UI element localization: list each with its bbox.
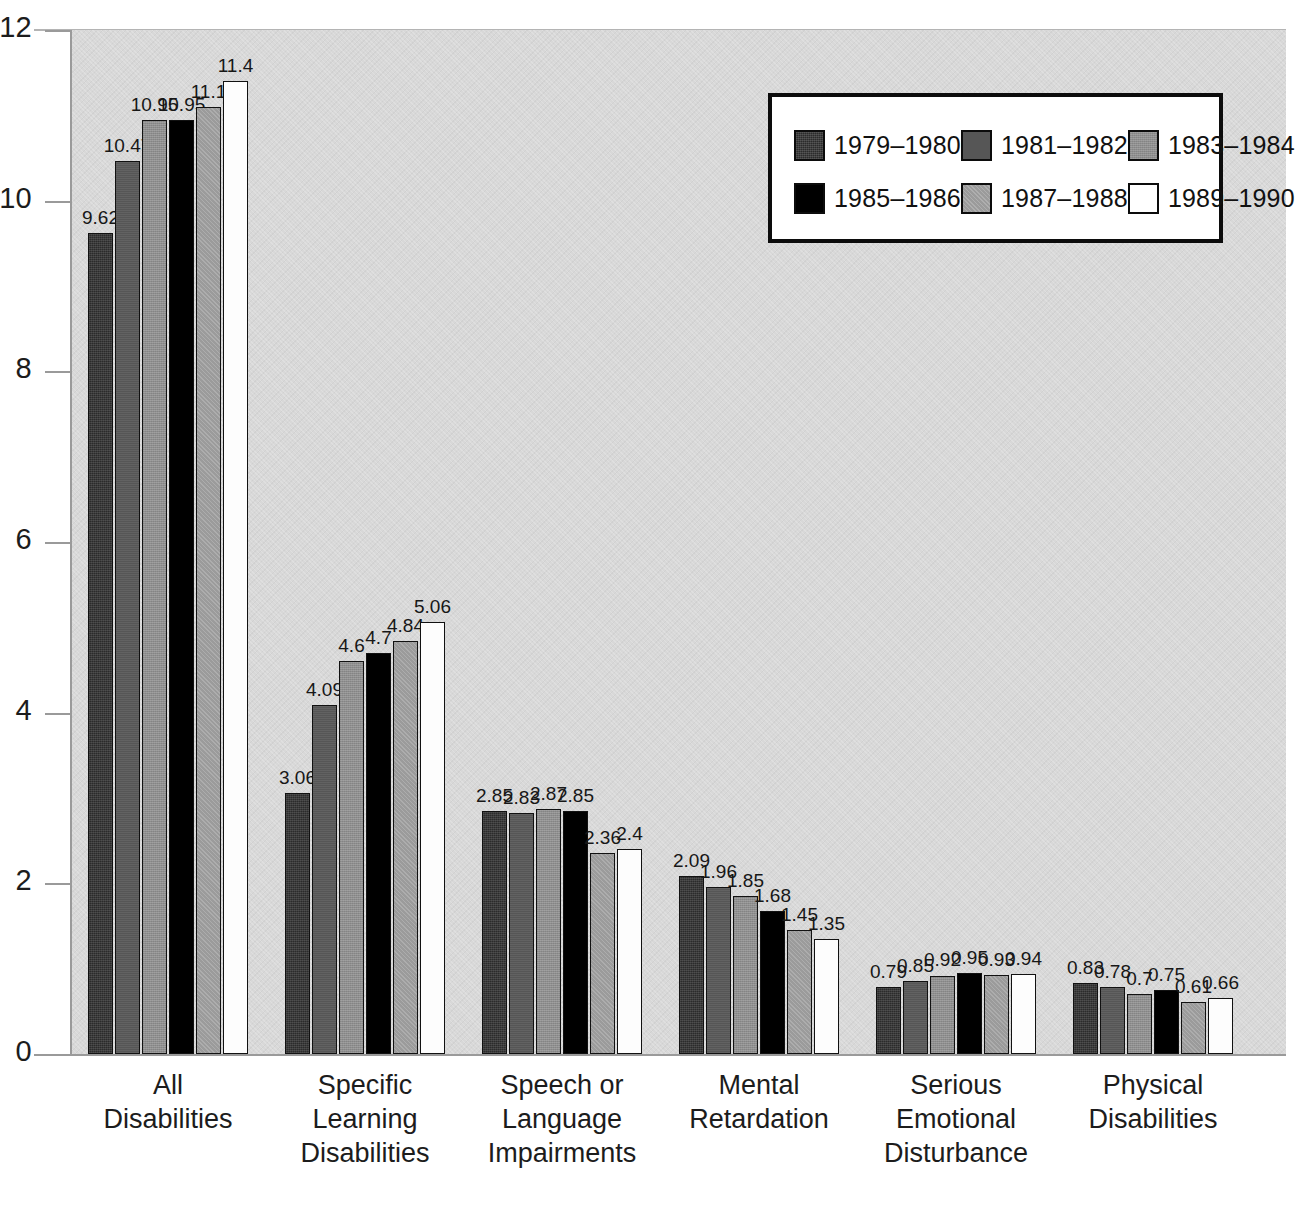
legend-item-label: 1979–1980 [834, 131, 961, 160]
bar-value-label: 1.35 [797, 913, 857, 935]
bar [1011, 974, 1036, 1054]
caption-strip [0, 1196, 1309, 1218]
y-axis-tick-label: 10 [0, 182, 32, 215]
legend-swatch [794, 130, 825, 161]
legend-swatch [961, 183, 992, 214]
y-axis-tick-label: 12 [0, 11, 32, 44]
bar [1181, 1002, 1206, 1054]
x-axis-category-label-line: Physical [1033, 1068, 1273, 1102]
y-axis-tick-label: 0 [16, 1035, 32, 1068]
legend-item-label: 1989–1990 [1168, 184, 1295, 213]
legend: 1979–19801981–19821983–19841985–19861987… [768, 93, 1223, 243]
bar [366, 653, 391, 1054]
bar [930, 976, 955, 1055]
bar [393, 641, 418, 1054]
bar [1127, 994, 1152, 1054]
y-axis-tick-mark [45, 883, 70, 885]
bar [223, 81, 248, 1054]
bar [1100, 987, 1125, 1054]
bar [88, 233, 113, 1054]
legend-item-label: 1981–1982 [1001, 131, 1128, 160]
bar [760, 911, 785, 1054]
bar [1208, 998, 1233, 1054]
bar [312, 705, 337, 1054]
bar [590, 853, 615, 1054]
legend-item-label: 1983–1984 [1168, 131, 1295, 160]
y-axis-tick-label: 6 [16, 523, 32, 556]
x-axis-category-label: PhysicalDisabilities [1033, 1068, 1273, 1136]
bar [984, 975, 1009, 1054]
legend-item: 1981–1982 [961, 130, 1128, 161]
bar-value-label: 0.94 [994, 948, 1054, 970]
x-axis-line [34, 1054, 1286, 1056]
x-axis-category-label-line: Disturbance [836, 1136, 1076, 1170]
bar-value-label: 11.4 [206, 55, 266, 77]
bar-value-label: 0.66 [1191, 972, 1251, 994]
bar [420, 622, 445, 1054]
bar [169, 120, 194, 1054]
legend-item: 1985–1986 [794, 183, 961, 214]
bar-value-label: 2.4 [600, 823, 660, 845]
bar [876, 987, 901, 1054]
legend-grid: 1979–19801981–19821983–19841985–19861987… [772, 97, 1219, 239]
legend-item-label: 1987–1988 [1001, 184, 1128, 213]
bar [339, 661, 364, 1054]
y-axis-tick-mark [45, 201, 70, 203]
legend-item: 1989–1990 [1128, 183, 1295, 214]
bar [509, 813, 534, 1054]
bar [536, 809, 561, 1054]
y-axis-tick-mark [45, 30, 70, 32]
bar [142, 120, 167, 1054]
legend-swatch [1128, 183, 1159, 214]
y-axis-tick-label: 2 [16, 864, 32, 897]
legend-item: 1979–1980 [794, 130, 961, 161]
legend-item-label: 1985–1986 [834, 184, 961, 213]
legend-swatch [961, 130, 992, 161]
bar [957, 973, 982, 1054]
bar [814, 939, 839, 1054]
legend-swatch [1128, 130, 1159, 161]
legend-swatch [794, 183, 825, 214]
bar [787, 930, 812, 1054]
y-axis-tick-mark [45, 542, 70, 544]
bar [733, 896, 758, 1054]
bar [679, 876, 704, 1054]
bar-value-label: 2.85 [546, 785, 606, 807]
y-axis-tick-mark [45, 1054, 70, 1056]
y-axis-line [70, 30, 72, 1055]
bar-value-label: 5.06 [403, 596, 463, 618]
y-axis-tick-label: 8 [16, 352, 32, 385]
bar [706, 887, 731, 1054]
bar [196, 107, 221, 1054]
bar [482, 811, 507, 1054]
bar [903, 981, 928, 1054]
x-axis-category-label-line: Impairments [442, 1136, 682, 1170]
bar [1154, 990, 1179, 1054]
legend-item: 1983–1984 [1128, 130, 1295, 161]
legend-item: 1987–1988 [961, 183, 1128, 214]
y-axis-tick-mark [45, 371, 70, 373]
bar [1073, 983, 1098, 1054]
y-axis-tick-label: 4 [16, 694, 32, 727]
x-axis-category-label-line: Disabilities [1033, 1102, 1273, 1136]
bar [285, 793, 310, 1054]
y-axis-tick-mark [45, 713, 70, 715]
bar [115, 161, 140, 1054]
bar [617, 849, 642, 1054]
chart-page: 024681012 9.6210.4710.9510.9511.111.43.0… [0, 0, 1309, 1218]
